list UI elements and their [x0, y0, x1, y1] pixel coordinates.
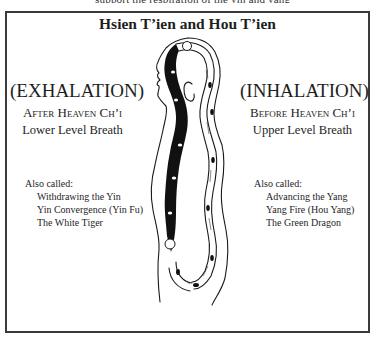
left-also-called-item: Withdrawing the Yin [25, 190, 143, 203]
left-also-called-item: Yin Convergence (Yin Fu) [25, 203, 143, 216]
body-channel-illustration [0, 0, 375, 339]
body-outline-back [188, 38, 228, 305]
right-also-called-item: The Green Dragon [254, 216, 354, 229]
left-subheading: After Heaven Ch’i [10, 105, 135, 121]
right-description: Upper Level Breath [240, 123, 365, 138]
left-also-called: Also called: Withdrawing the Yin Yin Con… [25, 177, 143, 229]
right-also-called-label: Also called: [254, 178, 302, 189]
left-also-called-item: The White Tiger [25, 216, 143, 229]
front-channel-dark [164, 44, 187, 252]
right-also-called-item: Advancing the Yang [254, 190, 354, 203]
right-also-called: Also called: Advancing the Yang Yang Fir… [254, 177, 354, 229]
right-heading: (INHALATION) [240, 80, 365, 102]
left-description: Lower Level Breath [10, 123, 135, 138]
left-heading: (EXHALATION) [10, 80, 135, 102]
ear [184, 82, 194, 101]
right-subheading: Before Heaven Ch’i [240, 105, 365, 121]
left-also-called-label: Also called: [25, 178, 73, 189]
base-point-circle [165, 239, 175, 249]
right-also-called-item: Yang Fire (Hou Yang) [254, 203, 354, 216]
crown-point-circle [183, 42, 192, 51]
